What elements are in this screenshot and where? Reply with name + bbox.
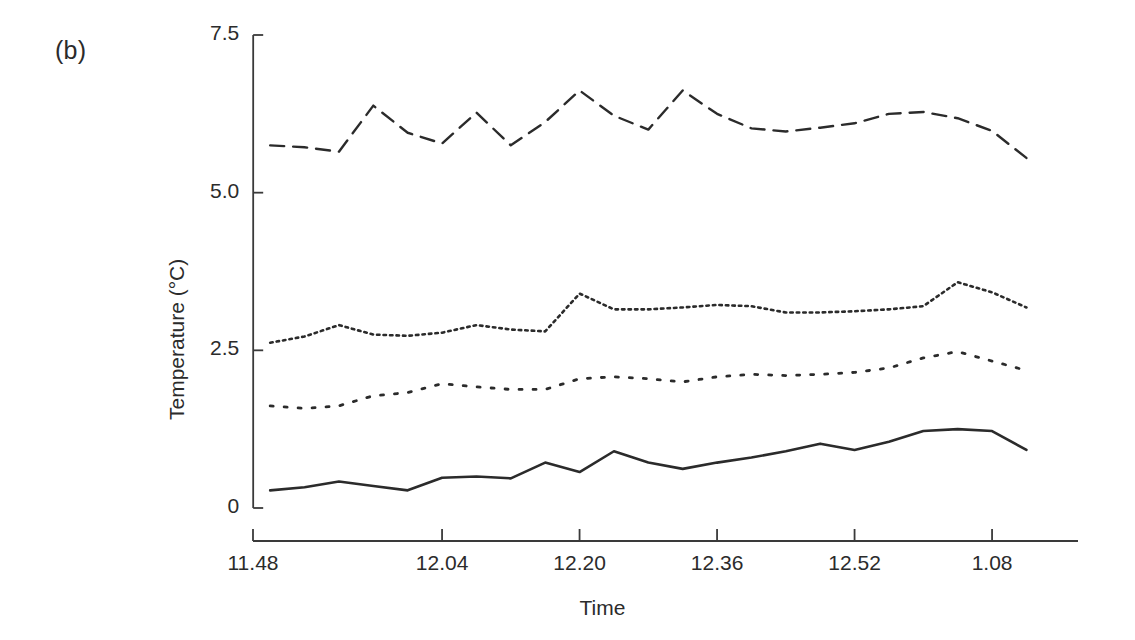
y-tick-label-1: 5.0 [169,179,239,203]
x-tick-label-2: 12.20 [525,551,635,575]
x-tick-label-4: 12.52 [800,551,910,575]
y-tick-label-3: 0 [169,494,239,518]
series-line-3 [270,352,1026,409]
y-axis-title: Temperature (°C) [140,160,170,420]
x-tick-label-5: 1.08 [937,551,1047,575]
chart-figure: (b) Temperature (°C) Time 7.55.02.50 11.… [0,0,1135,640]
x-tick-label-0: 11.48 [198,551,308,575]
x-axis-title: Time [0,596,1135,620]
series-line-4 [270,429,1026,490]
y-tick-label-2: 2.5 [169,336,239,360]
series-line-2 [270,282,1026,343]
y-tick-label-0: 7.5 [169,21,239,45]
x-axis-title-text: Time [580,596,626,619]
x-tick-label-1: 12.04 [387,551,497,575]
panel-label: (b) [55,36,86,65]
x-tick-label-3: 12.36 [662,551,772,575]
series-line-1 [270,90,1026,157]
